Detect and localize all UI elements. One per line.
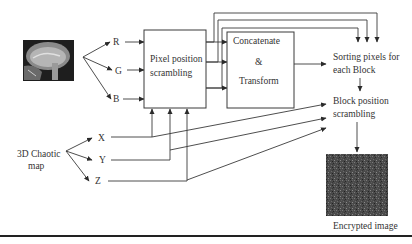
channel-r-label: R	[113, 37, 120, 47]
rgb-split-arrows	[83, 42, 112, 99]
sorting-label-1: Sorting pixels for	[333, 52, 400, 62]
pixel-position-scrambling-box: Pixel position scrambling	[144, 30, 206, 108]
encrypted-image-label: Encrypted image	[333, 221, 398, 231]
encrypted-image: Encrypted image	[326, 154, 398, 231]
xyz-split-arrows	[66, 138, 92, 181]
key-lines-to-pixel-box	[108, 109, 187, 181]
chaotic-map-node: 3D Chaotic map	[17, 149, 61, 171]
block-scrambling-label-1: Block position	[333, 96, 389, 106]
chaotic-map-label-2: map	[28, 161, 45, 171]
sorting-label-2: each Block	[333, 65, 376, 75]
sorting-pixels-node: Sorting pixels for each Block	[333, 52, 400, 75]
block-scrambling-label-2: scrambling	[333, 109, 375, 119]
concat-label-3: Transform	[239, 76, 279, 86]
concat-label-2: &	[255, 57, 263, 67]
chaotic-y-label: Y	[99, 155, 106, 165]
encryption-flow-diagram: R G B Pixel position scrambling Concaten…	[0, 0, 412, 244]
chaotic-z-label: Z	[95, 176, 101, 186]
chaotic-x-label: X	[98, 133, 105, 143]
channel-b-label: B	[113, 94, 119, 104]
concat-label-1: Concatenate	[233, 36, 280, 46]
chaotic-map-label-1: 3D Chaotic	[17, 149, 61, 159]
concatenate-transform-box: Concatenate & Transform	[227, 32, 294, 108]
channel-g-label: G	[115, 66, 122, 76]
pixel-scrambling-label-1: Pixel position	[150, 54, 203, 64]
input-brain-image	[23, 40, 74, 81]
block-position-scrambling-node: Block position scrambling	[333, 96, 389, 119]
key-lines-to-block-scrambling	[152, 104, 326, 180]
pixel-scrambling-label-2: scrambling	[150, 68, 192, 78]
